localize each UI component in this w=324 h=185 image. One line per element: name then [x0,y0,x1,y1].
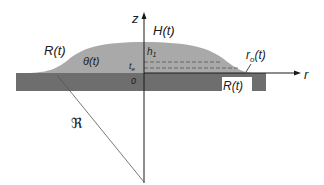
r0-label: ro(t) [246,48,266,64]
z-axis-label: z [131,11,139,26]
height-label: H(t) [153,23,175,38]
droplet-diagram: z r H(t) R(t) θ(t) h1 te 0 ro(t) R(t) ℜ [0,0,324,185]
z-axis-arrowhead [142,12,147,19]
right-radius-label: R(t) [223,79,243,93]
r-axis-label: r [304,67,309,82]
curvature-label: ℜ [71,116,83,131]
origin-label: 0 [131,76,136,86]
contact-angle-label: θ(t) [83,55,100,67]
left-radius-label: R(t) [44,43,66,58]
r-axis-arrowhead [294,71,301,76]
r0-pointer [246,64,251,72]
